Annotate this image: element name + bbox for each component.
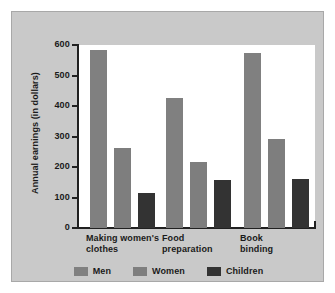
bar-men-1 — [90, 50, 107, 228]
category-label-1: Making women's clothes — [86, 233, 159, 255]
legend-swatch-women — [133, 267, 147, 276]
bar-men-3 — [244, 53, 261, 228]
legend-swatch-men — [74, 267, 88, 276]
bar-women-3 — [268, 139, 285, 228]
bar-men-2 — [166, 98, 183, 228]
legend-item-women: Women — [133, 267, 185, 276]
y-axis-title: Annual earnings (in dollars) — [30, 48, 40, 218]
legend-label-children: Children — [226, 267, 263, 276]
bars-layer — [78, 45, 315, 228]
bar-children-3 — [292, 179, 309, 228]
bar-chart-figure: 0100200300400500600 Annual earnings (in … — [0, 0, 335, 293]
legend-swatch-children — [207, 267, 221, 276]
chart-panel: 0100200300400500600 Annual earnings (in … — [11, 11, 324, 282]
legend-item-children: Children — [207, 267, 263, 276]
bar-women-1 — [114, 148, 131, 228]
y-axis-tick-label: 0 — [30, 223, 70, 232]
legend-label-women: Women — [152, 267, 185, 276]
bar-women-2 — [190, 162, 207, 228]
chart-legend: MenWomenChildren — [12, 267, 325, 276]
bar-children-1 — [138, 193, 155, 228]
category-label-3: Book binding — [240, 233, 273, 255]
bar-children-2 — [214, 180, 231, 228]
legend-item-men: Men — [74, 267, 111, 276]
category-label-2: Food preparation — [162, 233, 213, 255]
legend-label-men: Men — [93, 267, 111, 276]
